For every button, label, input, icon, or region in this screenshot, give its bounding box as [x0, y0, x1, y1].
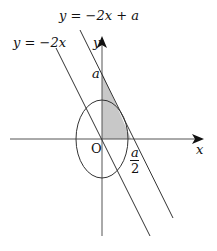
y-intercept-label: a [92, 67, 100, 80]
y-axis-label: y [93, 36, 100, 49]
x-intercept-denominator: 2 [131, 162, 139, 175]
shaded-region [102, 72, 131, 139]
diagram: y = −2x + a y = −2x y x O a a 2 [0, 0, 217, 251]
line1-label: y = −2x + a [59, 9, 139, 22]
x-axis-label: x [196, 143, 203, 156]
origin-label: O [91, 142, 102, 155]
line2-label: y = −2x [13, 36, 66, 49]
x-intercept-numerator: a [131, 146, 139, 159]
